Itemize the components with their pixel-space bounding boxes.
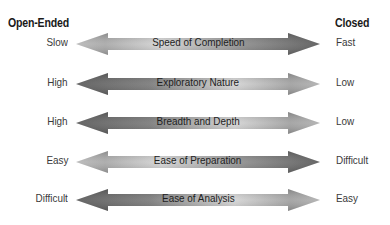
row-speed-of-completion: Slow Speed of Completion Fast	[0, 29, 390, 59]
left-value: Difficult	[36, 192, 68, 204]
right-value: Low	[336, 76, 354, 88]
right-value: Difficult	[336, 154, 368, 166]
row-breadth-and-depth: High Breadth and Depth Low	[0, 108, 390, 138]
left-value: High	[48, 76, 68, 88]
double-arrow-icon	[76, 69, 320, 99]
closed-header: Closed	[335, 16, 369, 30]
row-ease-of-analysis: Difficult Ease of Analysis Easy	[0, 185, 390, 215]
left-value: High	[48, 115, 68, 127]
right-value: Low	[336, 115, 354, 127]
double-arrow-icon	[76, 108, 320, 138]
right-value: Fast	[336, 36, 355, 48]
open-ended-header: Open-Ended	[8, 16, 69, 30]
left-value: Easy	[46, 154, 68, 166]
right-value: Easy	[336, 192, 358, 204]
double-arrow-icon	[76, 185, 320, 215]
row-ease-of-preparation: Easy Ease of Preparation Difficult	[0, 147, 390, 177]
left-value: Slow	[47, 36, 68, 48]
row-exploratory-nature: High Exploratory Nature Low	[0, 69, 390, 99]
double-arrow-icon	[76, 29, 320, 59]
double-arrow-icon	[76, 147, 320, 177]
